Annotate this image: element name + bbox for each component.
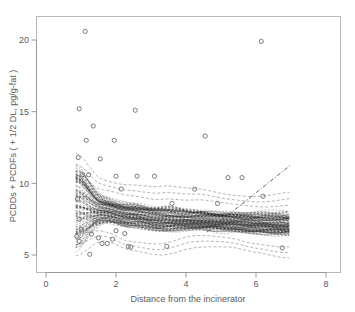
x-tick-label: 6 (253, 279, 258, 289)
caption-strip (60, 0, 310, 9)
data-point (240, 176, 244, 180)
data-point (135, 174, 139, 178)
data-point (84, 138, 88, 142)
data-point (114, 174, 118, 178)
data-point (226, 176, 230, 180)
data-point (259, 39, 263, 43)
y-axis-title: PCDDs + PCDFs ( + 1/2 DL, pg/g-fat ) (8, 70, 18, 223)
x-axis-title: Distance from the incinerator (130, 294, 245, 304)
data-point (88, 252, 92, 256)
data-point (193, 187, 197, 191)
x-tick-label: 4 (183, 279, 188, 289)
data-point (98, 157, 102, 161)
data-point (112, 138, 116, 142)
band-envelope (76, 231, 290, 247)
scatter-plot-svg: 02468 5101520 Distance from the incinera… (0, 0, 355, 312)
data-point (170, 201, 174, 205)
data-point (280, 246, 284, 250)
x-axis: 02468 (43, 273, 328, 290)
x-tick-label: 2 (113, 279, 118, 289)
band-envelope-curves (76, 153, 290, 258)
data-point (133, 108, 137, 112)
band-envelope (76, 164, 290, 202)
y-tick-label: 5 (24, 250, 29, 260)
band-envelope (76, 241, 290, 258)
band-envelope (76, 153, 290, 196)
y-tick-label: 20 (19, 35, 29, 45)
data-point (100, 241, 104, 245)
data-point (152, 174, 156, 178)
data-point (105, 241, 109, 245)
data-point (77, 107, 81, 111)
data-point (91, 124, 95, 128)
y-axis: 5101520 (19, 35, 37, 260)
data-point (165, 244, 169, 248)
spline-replicate (76, 176, 290, 221)
data-point (87, 173, 91, 177)
data-point (96, 236, 100, 240)
data-point (114, 229, 118, 233)
x-tick-label: 8 (323, 279, 328, 289)
y-tick-label: 15 (19, 107, 29, 117)
figure-panel: 02468 5101520 Distance from the incinera… (0, 0, 355, 312)
spline-replicate (76, 182, 290, 221)
y-tick-label: 10 (19, 179, 29, 189)
bootstrap-spline-band (76, 165, 290, 252)
data-point (123, 231, 127, 235)
data-point (203, 134, 207, 138)
data-point (83, 29, 87, 33)
data-point (129, 245, 133, 249)
x-tick-label: 0 (43, 279, 48, 289)
data-point (76, 155, 80, 159)
